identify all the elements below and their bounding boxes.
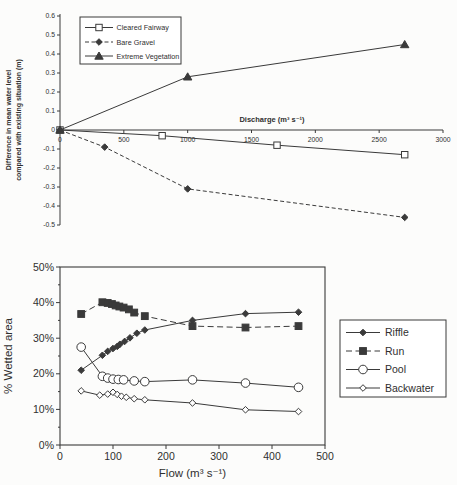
y-tick-label: 0% [39, 439, 54, 451]
axes: 01002003004005000%10%20%30%40%50% [33, 261, 334, 462]
legend-label-extreme-vegetation: Extreme Vegetation [117, 52, 180, 61]
wetted-area-chart: 01002003004005000%10%20%30%40%50%Flow (m… [0, 245, 457, 485]
svg-text:Difference in mean water level: Difference in mean water level [5, 70, 12, 170]
marker-pool [294, 383, 303, 392]
x-axis-title: Flow (m³ s⁻¹) [159, 467, 227, 479]
x-tick-label: 500 [118, 136, 130, 143]
marker-backwater [96, 392, 103, 399]
x-tick-label: 0 [57, 450, 63, 462]
marker-run [141, 313, 148, 320]
marker-run [295, 323, 302, 330]
marker-riffle [127, 335, 134, 342]
x-tick-label: 2000 [308, 136, 323, 143]
marker-backwater [131, 395, 138, 402]
y-tick-label: 20% [33, 367, 54, 379]
marker-riffle [295, 309, 302, 316]
series-run [78, 299, 302, 331]
y-tick-label: -0.3 [43, 183, 55, 190]
legend-wetted-area: RiffleRunPoolBackwater [340, 320, 446, 397]
figure-page: 0.60.50.40.30.20.10-0.1-0.2-0.3-0.4-0.50… [0, 0, 457, 485]
marker-bare-gravel [101, 144, 108, 151]
marker-pool [241, 379, 250, 388]
x-tick-label: 2500 [372, 136, 387, 143]
y-tick-label: -0.2 [43, 164, 55, 171]
legend-label-run: Run [385, 345, 404, 357]
marker-cleared-fairway [159, 133, 165, 139]
y-tick-label: 0.2 [46, 88, 56, 95]
marker-backwater [295, 408, 302, 415]
series-backwater [78, 388, 302, 415]
legend-water-level: Cleared FairwayBare GravelExtreme Vegeta… [80, 17, 181, 64]
marker-run [189, 323, 196, 330]
y-tick-label: 0.5 [46, 31, 56, 38]
y-tick-label: 0.6 [46, 12, 56, 19]
legend-label-cleared-fairway: Cleared Fairway [117, 23, 170, 32]
y-tick-label: 10% [33, 403, 54, 415]
y-tick-label: 50% [33, 261, 54, 273]
y-axis-title: Difference in mean water levelcompared w… [5, 59, 23, 181]
marker-cleared-fairway [274, 142, 280, 148]
series-bare-gravel [57, 127, 408, 221]
marker-riffle [78, 367, 85, 374]
legend-label-bare-gravel: Bare Gravel [117, 38, 156, 47]
x-tick-label: 0 [58, 136, 62, 143]
legend-marker-cleared-fairway [96, 24, 102, 30]
x-axis-title: Discharge (m³ s⁻¹) [239, 115, 305, 124]
x-tick-label: 300 [210, 450, 228, 462]
y-axis-title: % Wetted area [2, 317, 14, 393]
svg-text:compared with existing situati: compared with existing situation (m) [15, 59, 23, 181]
marker-riffle [134, 330, 141, 337]
water-level-chart: 0.60.50.40.30.20.10-0.1-0.2-0.3-0.4-0.50… [0, 0, 457, 245]
series-riffle [78, 309, 302, 374]
marker-run [131, 309, 138, 316]
series-cleared-fairway [57, 127, 408, 158]
marker-backwater [242, 406, 249, 413]
x-tick-label: 200 [157, 450, 175, 462]
y-tick-label: 0.4 [46, 50, 56, 57]
marker-bare-gravel [184, 186, 191, 193]
marker-cleared-fairway [402, 152, 408, 158]
y-tick-label: -0.1 [43, 145, 55, 152]
series-line-bare-gravel [60, 130, 405, 217]
legend-marker-run [360, 348, 367, 355]
marker-extreme-vegetation [401, 41, 409, 48]
y-tick-label: -0.4 [43, 202, 55, 209]
marker-run [242, 324, 249, 331]
legend-label-backwater: Backwater [385, 382, 435, 394]
x-tick-label: 3000 [435, 136, 450, 143]
y-tick-label: 0 [51, 126, 55, 133]
legend-label-pool: Pool [385, 363, 406, 375]
legend-marker-pool [359, 365, 368, 374]
marker-riffle [99, 352, 106, 359]
x-tick-label: 400 [263, 450, 281, 462]
x-tick-label: 1500 [244, 136, 259, 143]
x-tick-label: 100 [104, 450, 122, 462]
marker-pool [77, 343, 86, 352]
marker-pool [141, 377, 150, 386]
y-tick-label: 40% [33, 296, 54, 308]
marker-pool [119, 376, 128, 385]
y-tick-label: 0.3 [46, 69, 56, 76]
marker-riffle [242, 310, 249, 317]
marker-riffle [142, 327, 149, 334]
y-tick-label: 30% [33, 332, 54, 344]
y-tick-label: 0.1 [46, 107, 56, 114]
y-tick-label: -0.5 [43, 221, 55, 228]
marker-backwater [78, 388, 85, 395]
x-tick-label: 500 [316, 450, 334, 462]
marker-run [78, 311, 85, 318]
marker-bare-gravel [401, 214, 408, 221]
marker-backwater [142, 396, 149, 403]
legend-label-riffle: Riffle [385, 326, 409, 338]
marker-backwater [189, 400, 196, 407]
marker-pool [130, 377, 139, 386]
marker-pool [188, 376, 197, 385]
